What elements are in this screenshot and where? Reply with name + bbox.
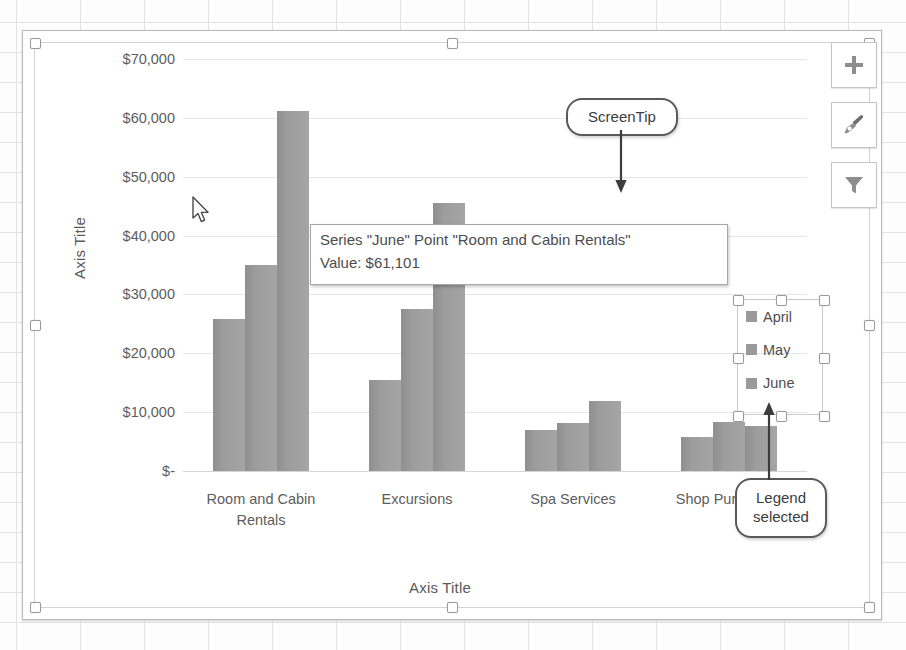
bar-april-0[interactable] — [213, 319, 245, 471]
legend-resize-handle-7[interactable] — [819, 411, 830, 422]
chart-resize-handle-7[interactable] — [864, 602, 875, 613]
chart-resize-handle-3[interactable] — [30, 320, 41, 331]
legend-selected-callout: Legend selected — [735, 478, 827, 538]
chart-resize-handle-6[interactable] — [447, 602, 458, 613]
chart-filters-button[interactable] — [831, 162, 877, 208]
bar-june-0[interactable] — [277, 111, 309, 471]
plus-icon — [843, 54, 865, 76]
bar-may-0[interactable] — [245, 265, 277, 471]
legend-selected-callout-arrow — [760, 398, 780, 480]
legend-resize-handle-1[interactable] — [776, 295, 787, 306]
chart-resize-handle-0[interactable] — [30, 38, 41, 49]
bar-may-3[interactable] — [713, 422, 745, 471]
chart-legend[interactable]: April May June — [737, 299, 823, 415]
legend-item-june[interactable]: June — [738, 367, 822, 400]
legend-swatch-icon — [746, 344, 757, 355]
x-axis-category-label: Excursions — [339, 489, 495, 510]
legend-label: May — [763, 342, 790, 358]
chart-resize-handle-5[interactable] — [30, 602, 41, 613]
chart-side-buttons[interactable] — [831, 42, 877, 222]
legend-label: June — [763, 375, 794, 391]
bar-may-2[interactable] — [557, 423, 589, 471]
x-axis-category-label: Room and Cabin Rentals — [183, 489, 339, 531]
legend-resize-handle-3[interactable] — [733, 353, 744, 364]
chart-styles-button[interactable] — [831, 102, 877, 148]
paintbrush-icon — [842, 113, 866, 137]
chart-data-tooltip: Series "June" Point "Room and Cabin Rent… — [310, 224, 728, 285]
legend-label: April — [763, 309, 792, 325]
x-axis-category-label: Spa Services — [495, 489, 651, 510]
funnel-icon — [843, 174, 865, 196]
legend-swatch-icon — [746, 378, 757, 389]
screentip-callout-arrow — [612, 130, 632, 196]
legend-resize-handle-2[interactable] — [819, 295, 830, 306]
tooltip-value: Value: $61,101 — [320, 252, 718, 275]
bar-series-group[interactable] — [23, 31, 857, 595]
worksheet-gridline-vertical — [16, 0, 17, 650]
legend-item-may[interactable]: May — [738, 333, 822, 366]
bar-june-2[interactable] — [589, 401, 621, 471]
bar-april-3[interactable] — [681, 437, 713, 471]
worksheet-gridline-horizontal — [0, 22, 906, 23]
tooltip-series-point: Series "June" Point "Room and Cabin Rent… — [320, 229, 718, 252]
legend-selected-callout-label: Legend selected — [753, 489, 809, 527]
legend-swatch-icon — [746, 311, 757, 322]
chart-plot-area[interactable]: $70,000$60,000$50,000$40,000$30,000$20,0… — [23, 31, 857, 595]
bar-april-1[interactable] — [369, 380, 401, 471]
legend-resize-handle-4[interactable] — [819, 353, 830, 364]
bar-may-1[interactable] — [401, 309, 433, 471]
worksheet-canvas: $70,000$60,000$50,000$40,000$30,000$20,0… — [0, 0, 906, 650]
chart-elements-button[interactable] — [831, 42, 877, 88]
legend-resize-handle-0[interactable] — [733, 295, 744, 306]
chart-resize-handle-1[interactable] — [447, 38, 458, 49]
bar-april-2[interactable] — [525, 430, 557, 471]
mouse-pointer-icon — [192, 196, 212, 228]
x-axis-title[interactable]: Axis Title — [23, 579, 857, 596]
screentip-callout-label: ScreenTip — [588, 108, 656, 127]
legend-resize-handle-5[interactable] — [733, 411, 744, 422]
worksheet-gridline-horizontal — [0, 622, 906, 623]
chart-resize-handle-4[interactable] — [864, 320, 875, 331]
